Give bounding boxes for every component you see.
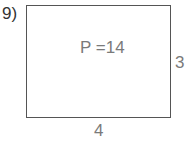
side-length-bottom: 4 [94,121,103,141]
perimeter-label: P =14 [80,38,125,58]
rectangle-shape [26,5,171,118]
problem-number: 9) [2,4,17,24]
side-length-right: 3 [175,53,184,73]
